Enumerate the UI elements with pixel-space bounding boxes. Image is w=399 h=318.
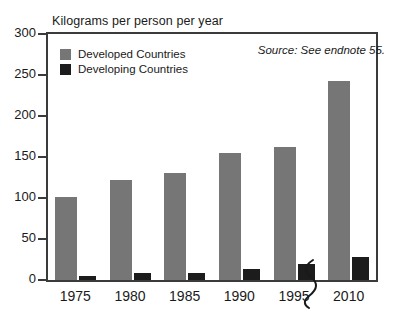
bar-developed-1980 <box>110 180 132 280</box>
bar-developing-1990 <box>243 269 260 280</box>
legend-item-developing: Developing Countries <box>60 63 188 75</box>
bar-developing-2010 <box>352 257 369 280</box>
bar-developed-1975 <box>55 197 77 280</box>
chart-legend: Developed Countries Developing Countries <box>60 48 188 78</box>
y-axis-label: 200 <box>0 107 36 122</box>
x-axis-label-1990: 1990 <box>209 288 269 304</box>
y-axis-label: 250 <box>0 66 36 81</box>
y-axis-label: 0 <box>0 271 36 286</box>
legend-swatch-icon-developing <box>60 64 71 75</box>
bar-developed-2010 <box>328 81 350 280</box>
y-axis-tick <box>38 197 47 199</box>
x-axis-label-1980: 1980 <box>100 288 160 304</box>
y-axis-tick <box>38 74 47 76</box>
axis-break-icon <box>300 258 322 310</box>
y-axis-label: 50 <box>0 230 36 245</box>
y-axis-label: 150 <box>0 148 36 163</box>
legend-item-developed: Developed Countries <box>60 48 188 60</box>
y-axis-tick <box>38 238 47 240</box>
legend-swatch-icon-developed <box>60 49 71 60</box>
bar-developing-1980 <box>134 273 151 280</box>
chart-container: Kilograms per person per year 0501001502… <box>0 0 399 318</box>
y-axis-tick <box>38 115 47 117</box>
bar-developed-1995 <box>274 147 296 280</box>
bar-developing-1975 <box>79 276 96 280</box>
y-axis-label: 300 <box>0 25 36 40</box>
x-axis-label-2010: 2010 <box>319 288 379 304</box>
legend-label-developing: Developing Countries <box>78 63 188 75</box>
legend-label-developed: Developed Countries <box>78 48 185 60</box>
x-axis-label-1985: 1985 <box>155 288 215 304</box>
bar-developing-1985 <box>188 273 205 280</box>
bar-developed-1990 <box>219 153 241 280</box>
y-axis-tick <box>38 279 47 281</box>
y-axis-tick <box>38 156 47 158</box>
x-axis-label-1975: 1975 <box>45 288 105 304</box>
chart-axis-title: Kilograms per person per year <box>52 14 223 28</box>
source-note: Source: See endnote 55. <box>258 44 385 56</box>
y-axis-label: 100 <box>0 189 36 204</box>
y-axis-tick <box>38 33 47 35</box>
bar-developed-1985 <box>164 173 186 280</box>
